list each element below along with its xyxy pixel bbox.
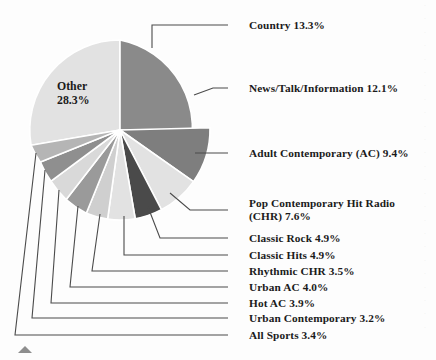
label-urban-ac: Urban AC 4.0% [249,281,328,294]
label-country: Country 13.3% [249,19,325,32]
inner-label-name: Other [57,79,89,93]
label-urban-contemporary: Urban Contemporary 3.2% [249,312,385,325]
pie-chart-figure [0,0,436,360]
label-all-sports: All Sports 3.4% [249,329,327,342]
page-caret-marker [18,346,32,353]
leader-line-country [152,25,228,48]
chart-page: Other 28.3% Country 13.3% News/Talk/Info… [0,0,436,360]
pie-slices [30,40,210,220]
pie-inner-label-other: Other 28.3% [57,79,89,107]
label-pop-chr: Pop Contemporary Hit Radio (CHR) 7.6% [249,197,399,223]
leader-line-rhythmic-chr [92,214,228,271]
inner-label-value: 28.3% [57,93,89,107]
leader-line-classic-hits [124,216,228,255]
leader-line-classic-rock [148,207,228,238]
label-rhythmic-chr: Rhythmic CHR 3.5% [249,265,355,278]
label-hot-ac: Hot AC 3.9% [249,297,315,310]
label-classic-hits: Classic Hits 4.9% [249,249,336,262]
label-adult-contemporary: Adult Contemporary (AC) 9.4% [249,147,409,160]
page-bleed-through-artifact: ························· [416,0,434,360]
label-news-talk: News/Talk/Information 12.1% [249,82,398,95]
label-classic-rock: Classic Rock 4.9% [249,232,341,245]
leader-line-urban-ac [70,206,228,287]
leader-line-news-talk [194,88,228,95]
